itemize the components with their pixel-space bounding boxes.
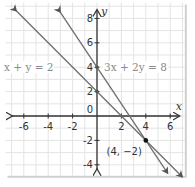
y-intercept-dot [95, 90, 99, 94]
intersection-point [144, 138, 149, 143]
y-tick-label: -2 [83, 135, 93, 146]
y-tick-label: 8 [87, 13, 93, 24]
y-tick-label: -4 [83, 159, 93, 170]
equation-label-2: 3x + 2y = 8 [104, 61, 167, 73]
origin-label: 0 [87, 104, 93, 115]
x-tick-label: 4 [143, 121, 149, 132]
y-axis-label: y [100, 5, 108, 18]
x-tick-label: 6 [167, 121, 173, 132]
x-tick-label: 2 [118, 121, 124, 132]
x-tick-label: -6 [19, 121, 29, 132]
x-tick-label: -2 [68, 121, 78, 132]
y-tick-label: 2 [87, 86, 93, 97]
graph-of-linear-system: -6-4-22468642-2-40xy (4, −2) x + y = 23x… [0, 0, 195, 187]
x-tick-label: -4 [43, 121, 53, 132]
y-intercept-dot [95, 65, 99, 69]
x-axis-label: x [176, 100, 183, 113]
y-tick-label: 6 [87, 37, 93, 48]
intersection-point-label: (4, −2) [107, 146, 142, 157]
y-tick-label: 4 [87, 62, 93, 73]
equation-label-1: x + y = 2 [4, 61, 53, 73]
